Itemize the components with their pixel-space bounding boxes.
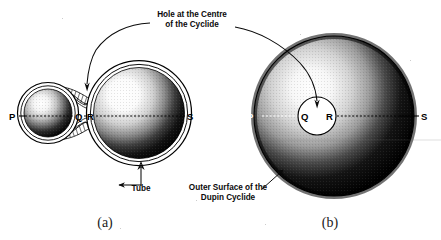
panel-b-label-p: P (247, 111, 254, 122)
title-line-2: of the Cyclide (165, 20, 219, 29)
large-sphere-group (87, 61, 192, 166)
large-sphere-grain (94, 68, 185, 159)
caption-a: (a) (97, 215, 113, 231)
panel-a-label-s: S (187, 111, 193, 122)
caption-b: (b) (322, 215, 339, 231)
outer-surface-line-1: Outer Surface of the (189, 183, 268, 192)
panel-a-label-p: P (9, 111, 16, 122)
panel-b-label-q: Q (301, 111, 308, 122)
outer-surface-line-2: Dupin Cyclide (201, 193, 256, 202)
title-line-1: Hole at the Centre (157, 10, 227, 19)
dupin-cyclide-figure: P Q R S P Q R S (0, 0, 441, 240)
panel-b-label-r: R (326, 111, 333, 122)
panel-a-label-q: Q (75, 111, 82, 122)
small-sphere-group (18, 83, 79, 144)
tube-label: Tube (132, 184, 151, 193)
panel-b-label-s: S (421, 111, 427, 122)
panel-a-label-r: R (87, 111, 94, 122)
